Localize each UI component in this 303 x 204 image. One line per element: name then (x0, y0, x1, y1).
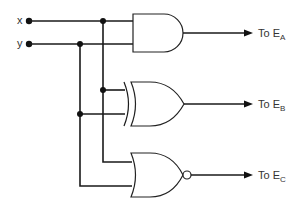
arrow-icon-ec (244, 172, 253, 179)
wire-y-branch (80, 44, 132, 186)
output-label-ec: To EC (258, 169, 286, 184)
input-label-y: y (17, 37, 23, 49)
xor-gate-extra-arc (124, 82, 129, 126)
output-label-eb: To EB (258, 98, 285, 113)
input-label-x: x (17, 14, 23, 26)
arrow-icon-ea (244, 30, 253, 37)
nor-inversion-bubble (183, 171, 191, 179)
junction-y (77, 41, 83, 47)
junction-x (100, 18, 106, 24)
junction-x-xor (100, 87, 106, 93)
output-label-ea: To EA (258, 27, 286, 42)
nor-gate (131, 153, 183, 197)
logic-circuit-diagram: x y To EA To EB To EC (0, 0, 303, 204)
and-gate (133, 14, 183, 52)
junction-y-xor (77, 111, 83, 117)
arrow-icon-eb (244, 101, 253, 108)
xor-gate (131, 82, 184, 126)
